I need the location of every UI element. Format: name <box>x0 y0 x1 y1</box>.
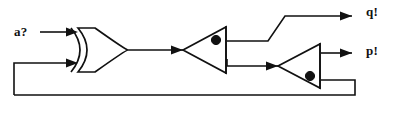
inverter2-to-p-wire <box>321 49 352 58</box>
xor-to-inverter1-wire <box>128 46 183 55</box>
inverter-1-bubble <box>211 35 220 44</box>
inverter1-to-q-wire <box>227 12 352 42</box>
output-label-q: q! <box>366 5 378 18</box>
inverter-gate-2 <box>278 43 320 89</box>
inverter2-feedback-bus <box>14 80 355 95</box>
output-label-p: p! <box>366 44 378 57</box>
inverter-gate-1 <box>183 26 226 74</box>
circuit-schematic-canvas <box>0 0 394 126</box>
feedback-wire <box>14 59 78 96</box>
input-label-a: a? <box>14 25 27 38</box>
circuit-diagram: a? q! p! <box>0 0 394 126</box>
p-output-arrowhead <box>340 49 352 58</box>
inverter-2-bubble <box>305 71 314 80</box>
inverter1-to-inverter2-wire <box>227 59 278 71</box>
xor-gate <box>71 28 128 72</box>
q-output-arrowhead <box>340 12 352 21</box>
